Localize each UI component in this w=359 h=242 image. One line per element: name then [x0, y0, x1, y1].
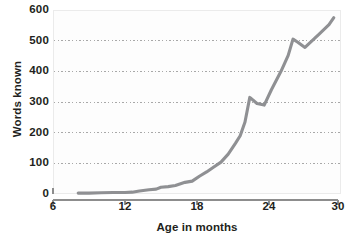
y-tick-label: 400: [3, 65, 49, 77]
line-chart: 0100200300400500600 612182430 Age in mon…: [0, 0, 359, 242]
x-tick-label: 30: [318, 201, 358, 213]
x-axis-title: Age in months: [53, 221, 341, 233]
y-tick-label: 0: [3, 188, 49, 200]
x-tick-label: 24: [249, 201, 289, 213]
series-line-words-known: [78, 18, 334, 193]
gridlines: [54, 41, 340, 164]
x-tick-label: 18: [177, 201, 217, 213]
x-tick-label: 6: [33, 201, 73, 213]
y-tick-label: 500: [3, 35, 49, 47]
y-tick-label: 100: [3, 157, 49, 169]
y-tick-label: 200: [3, 127, 49, 139]
y-axis-title: Words known: [11, 39, 23, 159]
y-tick-label: 300: [3, 96, 49, 108]
x-tick-label: 12: [105, 201, 145, 213]
y-tick-label: 600: [3, 4, 49, 16]
